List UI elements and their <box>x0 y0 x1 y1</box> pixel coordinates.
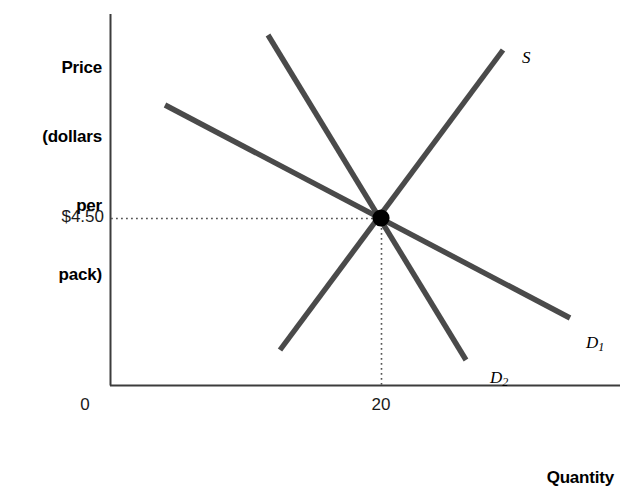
demand2-curve-label: D2 <box>473 348 508 410</box>
demand1-curve-label-subscript: 1 <box>598 340 604 354</box>
y-axis-title-line-1: Price <box>0 56 102 79</box>
y-axis-title: Price (dollars per pack) <box>0 10 102 332</box>
supply-demand-chart: Price (dollars per pack) Quantity (billi… <box>0 0 620 490</box>
supply-curve-label-text: S <box>522 48 531 67</box>
x-axis-tick-label-origin: 0 <box>70 395 100 415</box>
y-axis-title-line-4: pack) <box>0 263 102 286</box>
x-axis-tick-label-quantity: 20 <box>361 395 401 415</box>
demand1-curve-label-text: D <box>586 333 598 352</box>
y-axis-title-line-2: (dollars <box>0 125 102 148</box>
x-axis-title-line-1: Quantity <box>418 466 614 489</box>
demand2-curve-label-subscript: 2 <box>502 375 508 389</box>
demand1-curve <box>165 105 570 318</box>
demand2-curve-label-text: D <box>490 368 502 387</box>
supply-curve <box>280 50 503 350</box>
demand2-curve <box>268 35 466 360</box>
equilibrium-point-marker <box>372 209 389 226</box>
demand1-curve-label: D1 <box>569 313 604 375</box>
y-axis-tick-label-price: $4.50 <box>20 207 104 227</box>
supply-curve-label: S <box>505 28 531 88</box>
x-axis-title: Quantity (billions of packs) <box>418 420 614 490</box>
